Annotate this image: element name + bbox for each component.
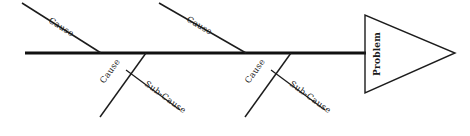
bone-lower-left-sub-cause-label: Sub-Cause [143, 79, 188, 116]
bone-upper-right-cause-label: Cause [185, 14, 214, 37]
bone-lower-right-cause-label: Cause [243, 57, 268, 85]
problem-head-label: Problem [372, 32, 382, 76]
bone-lower-right-sub-cause-label: Sub-Cause [288, 79, 333, 116]
bone-lower-left-cause-label: Cause [98, 57, 123, 85]
fishbone-diagram-canvas: Problem Cause Cause Cause Sub-Cause Caus… [0, 0, 470, 136]
bone-lower-left-cause-line [100, 53, 146, 117]
bone-lower-right-cause-line [245, 53, 291, 117]
bone-upper-left-cause-label: Cause [47, 15, 76, 38]
fishbone-diagram: Problem Cause Cause Cause Sub-Cause Caus… [0, 0, 470, 136]
